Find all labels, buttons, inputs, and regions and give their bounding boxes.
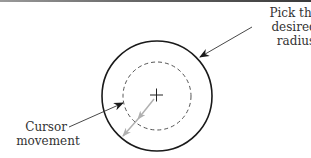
- cursor-movement-arrow: [123, 99, 154, 136]
- circle-radius-diagram: Pick the desired radius Cursor movement: [0, 0, 311, 158]
- center-crosshair-icon: [150, 89, 163, 102]
- pick-radius-leader-arrow: [200, 27, 252, 57]
- pick-radius-label: Pick the desired radius: [269, 6, 311, 48]
- cursor-movement-label: Cursor movement: [16, 120, 80, 148]
- cursor-leader-arrow: [69, 103, 123, 127]
